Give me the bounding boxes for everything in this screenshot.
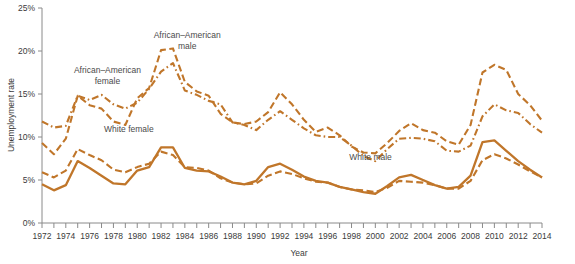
x-tick-label: 1974 <box>56 231 75 241</box>
y-tick-label: 25% <box>18 3 35 13</box>
series-labels: African–AmericanmaleAfrican–Americanfema… <box>74 30 392 162</box>
unemployment-rate-chart: 0%5%10%15%20%25% 19721974197619781980198… <box>0 0 575 264</box>
series-line-2 <box>42 140 542 193</box>
x-tick-label: 1998 <box>342 231 361 241</box>
x-tick-label: 1980 <box>128 231 147 241</box>
x-tick-label: 2004 <box>413 231 432 241</box>
x-tick-label: 1972 <box>33 231 52 241</box>
x-tick-label: 2002 <box>390 231 409 241</box>
x-tick-label: 1996 <box>318 231 337 241</box>
series-line-0 <box>42 48 542 154</box>
y-axis-title: Unemployment rate <box>6 78 16 152</box>
x-tick-label: 1976 <box>80 231 99 241</box>
x-axis-ticks: 1972197419761978198019821984198619881990… <box>33 223 552 241</box>
x-tick-label: 1990 <box>247 231 266 241</box>
x-tick-label: 2000 <box>366 231 385 241</box>
y-axis-ticks: 0%5%10%15%20%25% <box>18 3 42 228</box>
y-tick-label: 0% <box>23 218 36 228</box>
y-tick-label: 20% <box>18 46 35 56</box>
series-label-3: White female <box>104 124 154 134</box>
x-tick-label: 1978 <box>104 231 123 241</box>
x-tick-label: 1994 <box>294 231 313 241</box>
x-tick-label: 2006 <box>437 231 456 241</box>
x-tick-label: 2010 <box>485 231 504 241</box>
series-label-2: White male <box>349 152 392 162</box>
x-tick-label: 2014 <box>533 231 552 241</box>
x-tick-label: 1982 <box>152 231 171 241</box>
x-tick-label: 2008 <box>461 231 480 241</box>
series-label-0: African–Americanmale <box>154 30 221 51</box>
chart-svg: 0%5%10%15%20%25% 19721974197619781980198… <box>0 0 575 264</box>
x-tick-label: 1988 <box>223 231 242 241</box>
y-tick-label: 10% <box>18 132 35 142</box>
x-tick-label: 1986 <box>199 231 218 241</box>
x-axis-title: Year <box>290 248 307 258</box>
x-tick-label: 1984 <box>175 231 194 241</box>
x-tick-label: 2012 <box>509 231 528 241</box>
y-tick-label: 15% <box>18 89 35 99</box>
x-tick-label: 1992 <box>271 231 290 241</box>
series-label-1: African–Americanfemale <box>74 65 141 86</box>
y-tick-label: 5% <box>23 175 36 185</box>
axes <box>42 8 542 223</box>
